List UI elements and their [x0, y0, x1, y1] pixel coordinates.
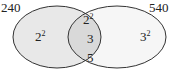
right-factor: 32: [140, 30, 151, 43]
left-set-label: 240: [1, 1, 21, 14]
intersection-factor-3: 5: [87, 51, 94, 64]
intersection-factor-1: 22: [83, 13, 94, 26]
left-factor: 22: [35, 30, 46, 43]
intersection-factor-2: 3: [87, 32, 94, 45]
right-set-label: 540: [149, 1, 169, 14]
